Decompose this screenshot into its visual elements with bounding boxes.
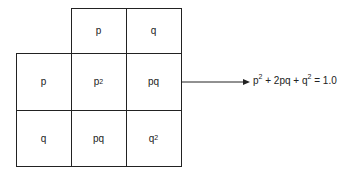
grid-line [126,8,127,167]
header-label: p [96,25,102,36]
row-header-q: q [16,110,71,166]
header-label: p [41,76,47,87]
cell-base: pq [93,133,104,144]
column-header-q: q [126,8,181,53]
grid-line [16,53,17,167]
cell-pq-top: pq [126,53,181,110]
cell-p-squared: p2 [71,53,126,110]
cell-base: pq [148,76,159,87]
grid-line [16,53,182,54]
hardy-weinberg-equation: p2 + 2pq + q2 = 1.0 [253,75,337,86]
eq-term: + 2pq + q [262,75,307,86]
row-header-p: p [16,53,71,110]
grid-line [181,8,182,167]
cell-q-squared: q2 [126,110,181,166]
eq-term: = 1.0 [311,75,336,86]
arrow-right-icon [181,77,251,87]
header-label: q [151,25,157,36]
grid-line [16,166,182,167]
grid-line [16,110,182,111]
cell-pq-bottom: pq [71,110,126,166]
grid-line [71,8,72,167]
column-header-p: p [71,8,126,53]
header-label: q [41,133,47,144]
